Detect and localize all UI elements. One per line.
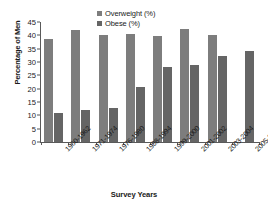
bar-group xyxy=(177,22,204,142)
x-tick-label: 2005-2006* xyxy=(253,147,259,153)
bar-overweight xyxy=(71,30,80,142)
bar-group xyxy=(150,22,177,142)
bar-overweight xyxy=(153,36,162,142)
bar-group xyxy=(96,22,123,142)
legend-label-overweight: Overweight (%) xyxy=(105,10,155,18)
y-tick-label: 5 xyxy=(32,124,36,133)
bar-group xyxy=(205,22,232,142)
bar-chart-figure: Overweight (%) Obese (%) Percentage of M… xyxy=(0,0,268,209)
bar-overweight xyxy=(44,39,53,142)
bar-overweight xyxy=(126,34,135,142)
y-tick-mark xyxy=(37,75,40,76)
bar-overweight xyxy=(208,35,217,142)
y-tick-label: 20 xyxy=(28,84,36,93)
x-tick-label: 2003-2004 xyxy=(226,147,232,153)
y-tick-label: 10 xyxy=(28,111,36,120)
y-tick-mark xyxy=(37,62,40,63)
y-tick-mark xyxy=(37,22,40,23)
bar-overweight xyxy=(99,35,108,142)
y-tick-mark xyxy=(37,48,40,49)
bar-group xyxy=(41,22,68,142)
legend-item-overweight: Overweight (%) xyxy=(97,10,155,18)
y-tick-label: 15 xyxy=(28,98,36,107)
bar-overweight xyxy=(180,29,189,142)
y-tick-label: 0 xyxy=(32,138,36,147)
bar-group xyxy=(68,22,95,142)
bar-group xyxy=(232,22,259,142)
x-tick-label: 1999-2000 xyxy=(172,147,178,153)
y-tick-label: 45 xyxy=(28,18,36,27)
plot-area xyxy=(41,22,259,142)
y-tick-mark xyxy=(37,88,40,89)
y-tick-label: 25 xyxy=(28,71,36,80)
x-tick-label: 2001-2002 xyxy=(199,147,205,153)
y-tick-label: 40 xyxy=(28,31,36,40)
x-tick-label: 1976-1980 xyxy=(117,147,123,153)
x-tick-label: 1971-1974 xyxy=(90,147,96,153)
x-tick-label: 1960-1962 xyxy=(63,147,69,153)
y-tick-mark xyxy=(37,35,40,36)
y-tick-label: 30 xyxy=(28,58,36,67)
x-axis-title: Survey Years xyxy=(0,190,268,199)
y-tick-mark xyxy=(37,128,40,129)
y-tick-mark xyxy=(37,102,40,103)
bar-obese xyxy=(54,113,63,142)
x-tick-label: 1988-1994 xyxy=(144,147,150,153)
y-tick-mark xyxy=(37,115,40,116)
bar-group xyxy=(123,22,150,142)
y-tick-mark xyxy=(37,142,40,143)
y-axis-ticks: 051015202530354045 xyxy=(16,0,36,209)
legend-swatch-overweight xyxy=(97,11,102,16)
y-tick-label: 35 xyxy=(28,44,36,53)
x-tick-mark xyxy=(41,142,42,145)
